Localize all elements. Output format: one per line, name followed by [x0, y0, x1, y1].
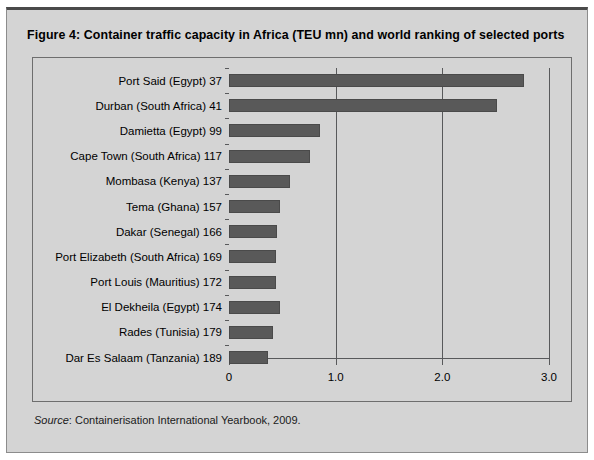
bar-category-label: Rades (Tunisia) 179: [33, 326, 229, 338]
bar: [229, 99, 497, 112]
bar-row: Rades (Tunisia) 179: [33, 320, 571, 345]
y-tick: [225, 345, 229, 346]
y-tick: [225, 93, 229, 94]
x-tick-label: 2.0: [434, 371, 450, 383]
bar: [229, 276, 276, 289]
source-text: : Containerisation International Yearboo…: [69, 414, 301, 426]
bar-category-label: Dakar (Senegal) 166: [33, 226, 229, 238]
bar: [229, 326, 273, 339]
y-tick: [225, 68, 229, 69]
bar-row: Port Elizabeth (South Africa) 169: [33, 244, 571, 269]
bar: [229, 200, 280, 213]
bar: [229, 301, 280, 314]
bar: [229, 124, 320, 137]
bar-category-label: Cape Town (South Africa) 117: [33, 150, 229, 162]
bar: [229, 175, 290, 188]
bar-category-label: Port Louis (Mauritius) 172: [33, 276, 229, 288]
bar-row: Durban (South Africa) 41: [33, 93, 571, 118]
y-tick: [225, 295, 229, 296]
y-tick: [225, 169, 229, 170]
source-label: Source: [34, 414, 69, 426]
bar-row: Cape Town (South Africa) 117: [33, 144, 571, 169]
bar-category-label: El Dekheila (Egypt) 174: [33, 301, 229, 313]
y-tick: [225, 219, 229, 220]
bar-category-label: Port Said (Egypt) 37: [33, 75, 229, 87]
bar-row: Port Said (Egypt) 37: [33, 68, 571, 93]
bar-category-label: Port Elizabeth (South Africa) 169: [33, 251, 229, 263]
x-tick-label: 3.0: [541, 371, 557, 383]
figure-panel: Figure 4: Container traffic capacity in …: [6, 7, 588, 453]
y-tick: [225, 144, 229, 145]
bar-row: Damietta (Egypt) 99: [33, 118, 571, 143]
source-note: Source: Containerisation International Y…: [34, 414, 301, 426]
bar: [229, 74, 524, 87]
bar-row: El Dekheila (Egypt) 174: [33, 295, 571, 320]
x-tick-label: 1.0: [328, 371, 344, 383]
x-tick-label: 0: [226, 371, 232, 383]
chart-area: 01.02.03.0 Port Said (Egypt) 37Durban (S…: [33, 58, 571, 401]
bar: [229, 150, 310, 163]
y-tick: [225, 194, 229, 195]
bar-category-label: Mombasa (Kenya) 137: [33, 175, 229, 187]
bar-row: Mombasa (Kenya) 137: [33, 169, 571, 194]
bar-category-label: Damietta (Egypt) 99: [33, 125, 229, 137]
y-tick: [225, 270, 229, 271]
figure-title: Figure 4: Container traffic capacity in …: [27, 28, 564, 42]
bar-row: Port Louis (Mauritius) 172: [33, 270, 571, 295]
chart-plot-frame: 01.02.03.0 Port Said (Egypt) 37Durban (S…: [32, 57, 572, 402]
bar: [229, 250, 276, 263]
bar-series: Port Said (Egypt) 37Durban (South Africa…: [33, 68, 571, 358]
bar: [229, 225, 277, 238]
bar-row: Tema (Ghana) 157: [33, 194, 571, 219]
y-tick: [225, 118, 229, 119]
bar-category-label: Tema (Ghana) 157: [33, 201, 229, 213]
bar: [229, 351, 268, 364]
bar-category-label: Durban (South Africa) 41: [33, 100, 229, 112]
y-tick: [225, 244, 229, 245]
bar-row: Dakar (Senegal) 166: [33, 219, 571, 244]
y-tick: [225, 320, 229, 321]
bar-row: Dar Es Salaam (Tanzania) 189: [33, 345, 571, 370]
bar-category-label: Dar Es Salaam (Tanzania) 189: [33, 352, 229, 364]
